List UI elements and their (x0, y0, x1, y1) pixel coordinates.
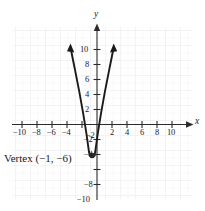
y-tick-label--10: −10 (77, 195, 90, 204)
vertex-annotation-label: Vertex (−1, −6) (4, 153, 72, 164)
x-tick-label--8: −8 (32, 128, 41, 137)
y-tick-label--2: −2 (84, 135, 93, 144)
x-tick-label--6: −6 (47, 128, 56, 137)
coordinate-plane-graphic (0, 0, 205, 211)
y-tick-label-2: 2 (85, 105, 89, 114)
y-tick-label-4: 4 (85, 90, 89, 99)
y-tick-label-6: 6 (85, 75, 89, 84)
y-tick-label-10: 10 (80, 45, 88, 54)
parabola-figure: −10 −8 −6 −4 −2 2 4 6 8 10 10 8 6 4 2 −2… (0, 0, 205, 211)
x-tick-label-4: 4 (125, 128, 129, 137)
y-axis-name-label: y (94, 10, 98, 20)
x-tick-label-8: 8 (155, 128, 159, 137)
x-tick-label--10: −10 (13, 128, 26, 137)
x-axis-name-label: x (195, 117, 199, 127)
x-tick-label--4: −4 (62, 128, 71, 137)
y-tick-label--4: −4 (84, 150, 93, 159)
y-tick-label--8: −8 (84, 180, 93, 189)
x-tick-label-6: 6 (140, 128, 144, 137)
x-tick-label-2: 2 (110, 128, 114, 137)
y-tick-label-8: 8 (85, 60, 89, 69)
x-tick-label-10: 10 (167, 128, 175, 137)
